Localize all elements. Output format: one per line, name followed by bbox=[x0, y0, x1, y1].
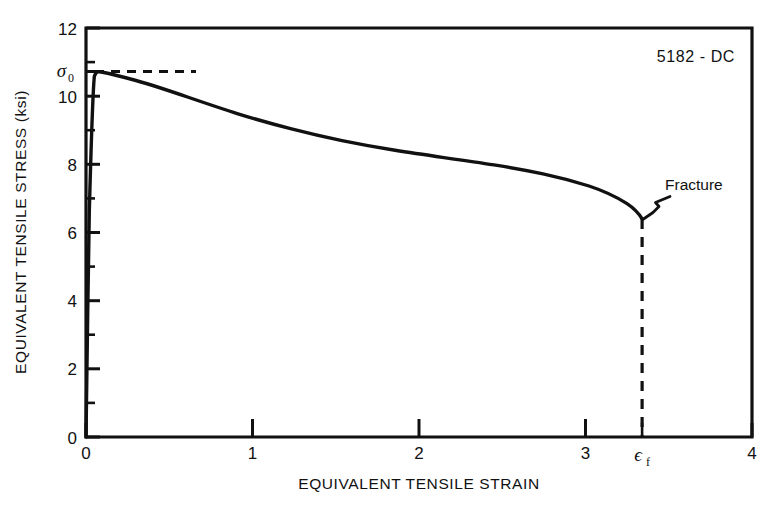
y-label-4: 4 bbox=[68, 292, 77, 311]
y-label-12: 12 bbox=[58, 20, 77, 39]
x-axis-title: EQUIVALENT TENSILE STRAIN bbox=[298, 475, 540, 492]
x-label-3: 3 bbox=[581, 444, 590, 463]
y-label-0: 0 bbox=[68, 429, 77, 448]
x-label-4: 4 bbox=[747, 444, 756, 463]
x-label-0: 0 bbox=[81, 444, 90, 463]
y-label-8: 8 bbox=[68, 156, 77, 175]
x-label-2: 2 bbox=[414, 444, 423, 463]
y-label-6: 6 bbox=[68, 224, 77, 243]
specimen-label: 5182 - DC bbox=[657, 48, 735, 65]
fracture-annotation-label: Fracture bbox=[665, 176, 723, 193]
x-label-1: 1 bbox=[248, 444, 257, 463]
y-label-10: 10 bbox=[58, 88, 77, 107]
epsilon-subscript: f bbox=[646, 455, 650, 469]
y-label-2: 2 bbox=[68, 360, 77, 379]
y-axis-title: EQUIVALENT TENSILE STRESS (ksi) bbox=[12, 90, 29, 374]
sigma-subscript: 0 bbox=[68, 71, 74, 85]
figure-chart-flow-curve: 0 2 4 6 8 10 12 σ 0 0 1 2 3 4 ϵ f EQUIVA… bbox=[0, 0, 773, 512]
sigma-symbol: σ bbox=[57, 60, 67, 81]
epsilon-symbol: ϵ bbox=[634, 444, 643, 465]
chart-svg: 0 2 4 6 8 10 12 σ 0 0 1 2 3 4 ϵ f EQUIVA… bbox=[0, 0, 773, 512]
